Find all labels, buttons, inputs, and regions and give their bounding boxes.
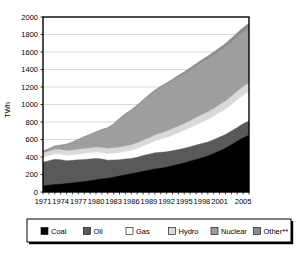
legend-item[interactable]: Other** (254, 227, 289, 236)
y-axis-tick-label: 2000 (21, 13, 38, 22)
legend-shadow-bottom (29, 242, 293, 244)
x-axis-tick-labels: 1971197419771980198319861989199219951998… (35, 197, 252, 206)
x-axis-tick-label: 1992 (158, 197, 175, 206)
x-axis-tick-label: 1998 (194, 197, 211, 206)
chart-container: 0200400600800100012001400160018002000 TW… (0, 0, 296, 257)
x-axis-tick-label: 1974 (52, 197, 69, 206)
x-axis-tick-label: 1995 (176, 197, 193, 206)
y-axis-tick-label: 1600 (21, 48, 38, 57)
legend-swatch (169, 228, 176, 235)
y-axis-tick-label: 1200 (21, 83, 38, 92)
x-axis-tick-label: 1986 (123, 197, 140, 206)
legend-item[interactable]: Oil (84, 227, 104, 236)
legend-label: Coal (51, 227, 67, 236)
x-axis-tick-label: 1989 (141, 197, 158, 206)
x-axis-tick-label: 2001 (211, 197, 228, 206)
legend-item[interactable]: Hydro (169, 227, 199, 236)
legend-label: Gas (136, 227, 150, 236)
legend-label: Nuclear (221, 227, 247, 236)
x-axis-tick-label: 1980 (88, 197, 105, 206)
y-axis-tick-label: 200 (25, 170, 38, 179)
x-axis-tick-label: 1977 (70, 197, 87, 206)
y-axis-tick-label: 1400 (21, 65, 38, 74)
legend-swatch (254, 228, 261, 235)
y-axis-tick-label: 600 (25, 135, 38, 144)
legend-item[interactable]: Coal (41, 227, 67, 236)
legend-item[interactable]: Gas (126, 227, 150, 236)
legend-swatch (126, 228, 133, 235)
legend: CoalOilGasHydroNuclearOther** (27, 219, 293, 244)
legend-label: Other** (264, 227, 289, 236)
legend-label: Oil (94, 227, 104, 236)
legend-swatch (84, 228, 91, 235)
legend-box (27, 219, 291, 242)
x-axis-tick-label: 1983 (105, 197, 122, 206)
y-axis-tick-label: 800 (25, 118, 38, 127)
y-axis-title: TWh (3, 102, 12, 118)
legend-item[interactable]: Nuclear (211, 227, 247, 236)
x-axis-tick-label: 2005 (235, 197, 252, 206)
stacked-area-chart: 0200400600800100012001400160018002000 TW… (0, 0, 296, 257)
x-axis-tick-label: 1971 (35, 197, 52, 206)
y-axis-tick-label: 1800 (21, 30, 38, 39)
legend-swatch (211, 228, 218, 235)
legend-label: Hydro (179, 227, 199, 236)
legend-swatch (41, 228, 48, 235)
y-axis-tick-label: 1000 (21, 100, 38, 109)
y-axis-tick-label: 400 (25, 153, 38, 162)
y-axis-tick-label: 0 (34, 188, 38, 197)
legend-shadow-right (291, 221, 293, 244)
